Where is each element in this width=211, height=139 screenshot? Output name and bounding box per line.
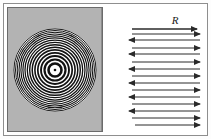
ray-label-R: R: [171, 14, 179, 26]
concentric-rings-graphic: [12, 27, 98, 113]
ring-center-dot: [54, 68, 57, 71]
ray-diagram-panel: R: [105, 7, 206, 132]
figure-root: R: [0, 0, 211, 139]
interference-ring-panel: [7, 7, 103, 132]
ray-line-group: [129, 29, 200, 125]
ray-arrows-svg: R: [105, 7, 206, 132]
plate-edge-shadow: [101, 7, 103, 132]
ray-arrows-graphic: R: [105, 7, 206, 132]
concentric-rings-svg: [12, 27, 98, 113]
